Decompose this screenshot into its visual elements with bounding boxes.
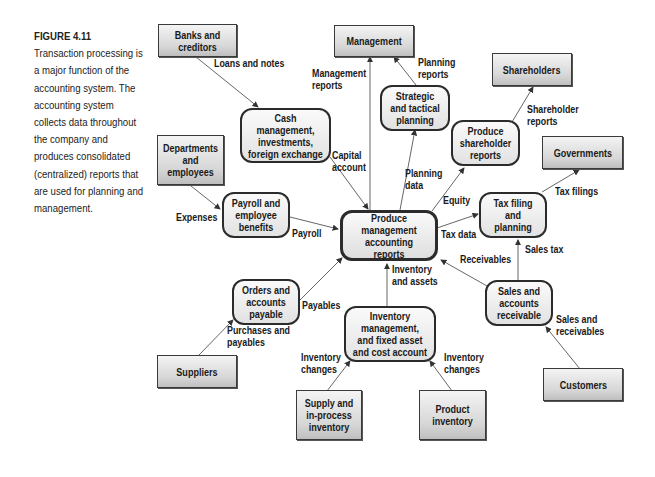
entity-suppliers: Suppliers [157, 355, 237, 388]
entity-governments: Governments [542, 136, 623, 169]
entity-supply-and-in-process-inventory: Supply and in-process inventory [296, 390, 362, 440]
entity-product-inventory: Product inventory [419, 390, 486, 440]
flow-label-inventory-changes-right: Inventory changes [444, 352, 484, 376]
flow-label-equity: Equity [443, 195, 470, 207]
flow-label-inventory-and-assets: Inventory and assets [392, 264, 438, 288]
flow-label-payables: Payables [302, 300, 340, 312]
process-strategic-and-tactical-planning: Strategic and tactical planning [380, 85, 450, 131]
flow-label-tax-data: Tax data [441, 229, 476, 241]
flow-label-purchases-and-payables: Purchases and payables [227, 325, 290, 349]
flow-label-inventory-changes-left: Inventory changes [301, 352, 341, 376]
entity-customers: Customers [543, 368, 623, 401]
flow-label-expenses: Expenses [176, 212, 217, 224]
process-produce-shareholder-reports: Produce shareholder reports [451, 120, 520, 166]
flow-label-sales-and-receivables: Sales and receivables [556, 314, 604, 338]
process-payroll-and-employee-benefits: Payroll and employee benefits [222, 192, 290, 238]
process-cash-management: Cash management, investments, foreign ex… [240, 108, 331, 163]
process-produce-management-accounting-reports: Produce management accounting reports [340, 210, 438, 261]
flow-label-tax-filings: Tax filings [555, 186, 598, 198]
process-inventory-management: Inventory management, and fixed asset an… [344, 306, 436, 362]
flow-label-receivables: Receivables [460, 254, 511, 266]
flow-label-payroll: Payroll [292, 228, 322, 240]
entity-banks-and-creditors: Banks and creditors [158, 24, 237, 57]
entity-shareholders: Shareholders [492, 53, 572, 86]
process-tax-filing-and-planning: Tax filing and planning [479, 192, 547, 238]
flow-label-loans-and-notes: Loans and notes [214, 58, 284, 70]
entity-management: Management [334, 25, 414, 57]
entity-departments-and-employees: Departments and employees [157, 135, 224, 185]
flow-label-shareholder-reports: Shareholder reports [527, 104, 579, 128]
process-sales-and-accounts-receivable: Sales and accounts receivable [485, 280, 553, 326]
flow-label-planning-data: Planning data [405, 168, 442, 192]
flow-label-planning-reports: Planning reports [418, 57, 455, 81]
flow-label-management-reports: Management reports [312, 68, 366, 92]
process-orders-and-accounts-payable: Orders and accounts payable [232, 279, 300, 325]
flow-label-sales-tax: Sales tax [525, 244, 563, 256]
flow-label-capital-account: Capital account [332, 150, 366, 174]
